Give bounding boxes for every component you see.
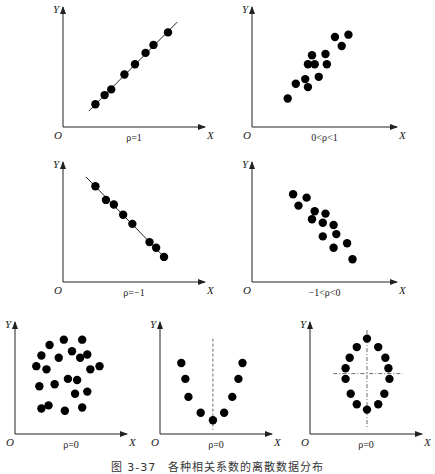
data-point <box>363 405 371 413</box>
data-point <box>110 200 118 208</box>
panel-caption: ρ=0 <box>63 439 79 450</box>
y-axis-label: Y <box>242 158 250 170</box>
data-point <box>308 51 316 59</box>
data-point <box>238 359 246 367</box>
scatter-panel-middle-right: OXY−1<ρ<0 <box>242 158 407 298</box>
data-point <box>164 28 172 36</box>
data-point <box>131 60 139 68</box>
data-point <box>220 409 228 417</box>
data-point <box>329 221 337 229</box>
data-point <box>86 365 94 373</box>
data-point <box>323 60 331 68</box>
data-point <box>332 230 340 238</box>
origin-label: O <box>243 284 251 296</box>
data-point <box>345 353 353 361</box>
y-axis-label: Y <box>300 318 308 330</box>
data-point <box>50 380 58 388</box>
y-axis-label: Y <box>53 3 61 15</box>
data-point <box>331 33 339 41</box>
data-point <box>385 375 393 383</box>
data-point <box>61 406 69 414</box>
data-point <box>83 350 91 358</box>
origin-label: O <box>301 436 309 448</box>
x-axis-label: X <box>398 284 407 296</box>
data-point <box>45 341 53 349</box>
data-point <box>384 364 392 372</box>
data-point <box>321 50 329 58</box>
data-point <box>329 244 337 252</box>
data-point <box>343 239 351 247</box>
origin-label: O <box>54 284 62 296</box>
scatter-panel-bottom-right: OXYρ=0 <box>300 318 432 450</box>
data-point <box>228 393 236 401</box>
data-point <box>35 382 43 390</box>
panel-caption: ρ=−1 <box>123 287 144 298</box>
data-point <box>37 351 45 359</box>
data-point <box>311 60 319 68</box>
data-point <box>294 201 302 209</box>
data-point <box>353 343 361 351</box>
x-axis-label: X <box>398 129 407 141</box>
data-point <box>292 79 300 87</box>
data-point <box>348 255 356 263</box>
data-point <box>315 73 323 81</box>
data-point <box>363 334 371 342</box>
panel-caption: −1<ρ<0 <box>309 287 341 298</box>
data-point <box>177 359 185 367</box>
data-point <box>319 232 327 240</box>
data-point <box>95 362 103 370</box>
data-point <box>341 375 349 383</box>
data-point <box>302 193 310 201</box>
data-point <box>160 253 168 261</box>
data-point <box>181 375 189 383</box>
data-point <box>353 400 361 408</box>
data-point <box>311 207 319 215</box>
data-point <box>321 209 329 217</box>
data-point <box>120 70 128 78</box>
x-axis-label: X <box>423 436 432 448</box>
data-point <box>68 347 76 355</box>
scatter-panel-top-right: OXY0<ρ<1 <box>242 3 407 143</box>
data-point <box>119 211 127 219</box>
x-axis-label: X <box>128 436 137 448</box>
data-point <box>380 390 388 398</box>
scatter-panel-bottom-left: OXYρ=0 <box>5 318 137 450</box>
data-point <box>234 375 242 383</box>
data-point <box>301 75 309 83</box>
panel-caption: ρ=1 <box>126 132 142 143</box>
data-point <box>55 353 63 361</box>
data-point <box>71 390 79 398</box>
data-point <box>141 49 149 57</box>
data-point <box>78 335 86 343</box>
data-point <box>184 393 192 401</box>
scatter-panel-top-left: OXYρ=1 <box>53 3 215 143</box>
data-point <box>107 85 115 93</box>
data-point <box>338 42 346 50</box>
origin-label: O <box>54 129 62 141</box>
data-point <box>37 404 45 412</box>
data-point <box>64 375 72 383</box>
data-point <box>102 196 110 204</box>
data-point <box>308 215 316 223</box>
data-point <box>344 30 352 38</box>
x-axis-label: X <box>206 284 215 296</box>
panel-caption: ρ=0 <box>208 439 224 450</box>
data-point <box>374 400 382 408</box>
y-axis-label: Y <box>5 318 13 330</box>
y-axis-label: Y <box>53 158 61 170</box>
data-point <box>319 219 327 227</box>
data-point <box>76 353 84 361</box>
data-point <box>346 390 354 398</box>
data-point <box>128 220 136 228</box>
data-point <box>83 387 91 395</box>
origin-label: O <box>6 436 14 448</box>
data-point <box>289 190 297 198</box>
data-point <box>32 362 40 370</box>
scatter-panel-middle-left: OXYρ=−1 <box>53 158 215 298</box>
data-point <box>374 343 382 351</box>
origin-label: O <box>243 129 251 141</box>
data-point <box>209 416 217 424</box>
data-point <box>196 409 204 417</box>
data-point <box>145 238 153 246</box>
